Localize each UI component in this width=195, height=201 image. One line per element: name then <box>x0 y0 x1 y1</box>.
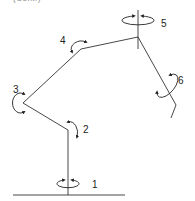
wrist-link <box>81 37 138 49</box>
joint-4-rotation-icon <box>71 41 86 52</box>
end-effector-tip <box>171 105 176 118</box>
joint-4-label: 4 <box>60 35 66 46</box>
joint-5-label: 5 <box>161 18 167 29</box>
joint-2-label: 2 <box>83 124 89 135</box>
robot-arm-diagram: 1 2 3 4 5 6 <box>0 0 195 201</box>
joint-6-label: 6 <box>178 75 184 86</box>
joint-3-rotation-icon <box>13 93 24 113</box>
joint-3-label: 3 <box>13 84 19 95</box>
joint-6-rotation-icon <box>157 74 178 97</box>
joint-1-label: 1 <box>92 179 98 190</box>
forearm-link <box>23 49 81 103</box>
joint-2-rotation-icon <box>68 122 78 137</box>
upper-arm-link <box>23 103 68 130</box>
